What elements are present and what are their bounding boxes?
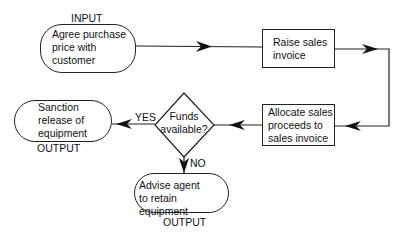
- output-label-sanction: OUTPUT: [37, 142, 80, 154]
- advise-agent-node: Advise agent to retain equipment: [134, 173, 229, 213]
- node-text-line: invoice: [273, 49, 334, 62]
- node-text-line: available?: [154, 123, 214, 136]
- funds-available-text: Funds available?: [154, 110, 214, 136]
- node-text-line: Allocate sales: [268, 106, 334, 119]
- node-text-line: proceeds to: [268, 119, 334, 132]
- node-text-line: sales invoice: [268, 132, 334, 145]
- output-label-advise: OUTPUT: [163, 216, 206, 228]
- sanction-release-node: Sanction release of equipment: [14, 100, 112, 142]
- node-text-line: Advise agent: [139, 179, 228, 192]
- node-text-line: Funds: [154, 110, 214, 123]
- no-label: NO: [190, 157, 206, 169]
- node-text-line: to retain equipment: [139, 192, 228, 218]
- agree-purchase-price-node: Agree purchase price with customer: [40, 24, 136, 73]
- input-label: INPUT: [71, 12, 103, 24]
- node-text-line: Raise sales: [273, 36, 334, 49]
- node-text-line: equipment: [38, 127, 111, 140]
- yes-label: YES: [135, 111, 156, 123]
- node-text-line: Sanction: [38, 101, 111, 114]
- node-text-line: customer: [52, 54, 135, 67]
- node-text-line: Agree purchase: [52, 28, 135, 41]
- node-text-line: release of: [38, 114, 111, 127]
- raise-sales-invoice-node: Raise sales invoice: [262, 29, 335, 68]
- node-text-line: price with: [52, 41, 135, 54]
- allocate-sales-proceeds-node: Allocate sales proceeds to sales invoice: [262, 104, 335, 146]
